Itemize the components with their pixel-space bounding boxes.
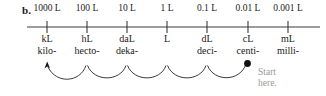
hop-arc-hecto-to-kilo	[48, 66, 86, 80]
hop-arc-deka-to-hecto	[88, 66, 127, 78]
hop-arc-centi-to-deci	[208, 64, 247, 78]
number-line-graphic	[0, 0, 326, 96]
hop-arc-deci-to-base	[168, 66, 207, 78]
start-here-line-2: here.	[258, 78, 277, 89]
metric-prefix-number-line-figure: b. 1000 L kL kilo- 100 L hL hecto- 10 L	[0, 0, 326, 96]
hop-arrowhead-icon	[44, 62, 50, 69]
start-here-annotation: Start here.	[258, 67, 277, 89]
hop-arc-base-to-deka	[128, 66, 167, 78]
start-dot-marker	[244, 60, 251, 67]
start-here-line-1: Start	[258, 67, 277, 78]
